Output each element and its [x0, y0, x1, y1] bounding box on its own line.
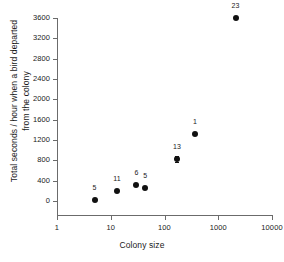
x-tick-label: 10 [86, 223, 136, 232]
x-tick-label: 100 [140, 223, 190, 232]
x-tick-mark [272, 216, 273, 220]
y-tick-mark [53, 181, 57, 182]
y-axis-title-wrap: Total seconds / hour when a bird departe… [9, 11, 35, 191]
y-tick-label: 0 [10, 196, 50, 205]
data-point [142, 185, 148, 191]
data-point-label: 5 [143, 172, 147, 179]
x-tick-mark [165, 216, 166, 220]
y-tick-mark [53, 59, 57, 60]
y-axis-line [57, 18, 58, 216]
y-tick-mark [53, 18, 57, 19]
y-tick-mark [53, 201, 57, 202]
y-tick-mark [53, 160, 57, 161]
y-tick-mark [53, 38, 57, 39]
data-point [192, 131, 198, 137]
x-tick-label: 10000 [247, 223, 284, 232]
data-point-label: 1 [193, 118, 197, 125]
data-point-label: 13 [173, 143, 181, 150]
x-tick-mark [218, 216, 219, 220]
y-tick-mark [53, 79, 57, 80]
data-point [92, 197, 98, 203]
error-bar-cap [175, 162, 179, 163]
data-point [133, 182, 139, 188]
data-point-label: 6 [134, 169, 138, 176]
data-point [114, 188, 120, 194]
x-tick-mark [111, 216, 112, 220]
data-point-label: 11 [113, 175, 120, 182]
scatter-plot-figure: 04008001200160020002400280032003600 1101… [0, 0, 284, 262]
data-point [174, 156, 180, 162]
y-tick-mark [53, 120, 57, 121]
y-tick-mark [53, 140, 57, 141]
y-axis-title: Total seconds / hour when a bird departe… [9, 11, 32, 191]
data-point-label: 23 [232, 2, 240, 9]
data-point-label: 5 [93, 184, 97, 191]
x-tick-mark [57, 216, 58, 220]
x-tick-label: 1 [32, 223, 82, 232]
x-axis-title: Colony size [0, 240, 284, 250]
x-tick-label: 1000 [193, 223, 243, 232]
y-tick-mark [53, 99, 57, 100]
data-point [233, 15, 239, 21]
